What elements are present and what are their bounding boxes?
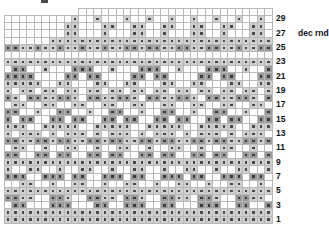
chart-cell[interactable] <box>116 109 123 116</box>
chart-cell[interactable] <box>5 137 12 144</box>
chart-cell[interactable] <box>146 195 153 202</box>
chart-cell[interactable] <box>250 209 257 216</box>
chart-cell[interactable] <box>116 16 123 23</box>
chart-cell[interactable] <box>265 216 272 223</box>
chart-cell[interactable] <box>146 66 153 73</box>
chart-cell[interactable] <box>86 144 93 151</box>
chart-cell[interactable] <box>124 159 131 166</box>
chart-cell[interactable] <box>243 80 250 87</box>
chart-cell[interactable] <box>109 23 116 30</box>
chart-cell[interactable] <box>27 16 34 23</box>
chart-cell[interactable] <box>5 23 12 30</box>
chart-cell[interactable] <box>71 123 78 130</box>
chart-cell[interactable] <box>42 123 49 130</box>
chart-cell[interactable] <box>49 195 56 202</box>
chart-cell[interactable] <box>79 44 86 51</box>
chart-cell[interactable] <box>19 87 26 94</box>
chart-cell[interactable] <box>124 152 131 159</box>
chart-cell[interactable] <box>101 80 108 87</box>
chart-cell[interactable] <box>131 87 138 94</box>
chart-cell[interactable] <box>116 173 123 180</box>
chart-cell[interactable] <box>57 202 64 209</box>
chart-cell[interactable] <box>42 216 49 223</box>
chart-cell[interactable] <box>228 66 235 73</box>
chart-cell[interactable] <box>235 73 242 80</box>
chart-cell[interactable] <box>243 166 250 173</box>
chart-cell[interactable] <box>101 102 108 109</box>
chart-cell[interactable] <box>228 173 235 180</box>
chart-cell[interactable] <box>116 102 123 109</box>
chart-cell[interactable] <box>257 123 264 130</box>
chart-cell[interactable] <box>109 187 116 194</box>
chart-cell[interactable] <box>257 209 264 216</box>
chart-cell[interactable] <box>101 130 108 137</box>
chart-cell[interactable] <box>213 195 220 202</box>
chart-cell[interactable] <box>138 44 145 51</box>
chart-cell[interactable] <box>109 159 116 166</box>
chart-cell[interactable] <box>124 51 131 58</box>
chart-cell[interactable] <box>153 109 160 116</box>
chart-cell[interactable] <box>198 37 205 44</box>
chart-cell[interactable] <box>94 216 101 223</box>
chart-cell[interactable] <box>228 94 235 101</box>
chart-cell[interactable] <box>101 209 108 216</box>
chart-cell[interactable] <box>183 130 190 137</box>
chart-cell[interactable] <box>190 30 197 37</box>
chart-cell[interactable] <box>213 173 220 180</box>
chart-cell[interactable] <box>109 80 116 87</box>
chart-cell[interactable] <box>131 195 138 202</box>
chart-cell[interactable] <box>42 195 49 202</box>
chart-cell[interactable] <box>12 44 19 51</box>
chart-cell[interactable] <box>131 37 138 44</box>
chart-cell[interactable] <box>49 94 56 101</box>
chart-cell[interactable] <box>257 59 264 66</box>
chart-cell[interactable] <box>198 173 205 180</box>
chart-cell[interactable] <box>250 137 257 144</box>
chart-cell[interactable] <box>257 144 264 151</box>
chart-cell[interactable] <box>116 202 123 209</box>
chart-cell[interactable] <box>243 180 250 187</box>
chart-cell[interactable] <box>190 195 197 202</box>
chart-cell[interactable] <box>101 66 108 73</box>
chart-cell[interactable] <box>42 173 49 180</box>
chart-cell[interactable] <box>183 66 190 73</box>
chart-cell[interactable] <box>94 159 101 166</box>
chart-cell[interactable] <box>220 152 227 159</box>
chart-cell[interactable] <box>79 195 86 202</box>
chart-cell[interactable] <box>146 209 153 216</box>
chart-cell[interactable] <box>198 44 205 51</box>
chart-cell[interactable] <box>257 109 264 116</box>
chart-cell[interactable] <box>205 173 212 180</box>
chart-cell[interactable] <box>228 102 235 109</box>
chart-cell[interactable] <box>250 173 257 180</box>
chart-cell[interactable] <box>161 23 168 30</box>
chart-cell[interactable] <box>94 80 101 87</box>
chart-cell[interactable] <box>176 80 183 87</box>
chart-cell[interactable] <box>220 144 227 151</box>
chart-cell[interactable] <box>34 123 41 130</box>
chart-cell[interactable] <box>153 173 160 180</box>
chart-cell[interactable] <box>168 137 175 144</box>
chart-cell[interactable] <box>19 173 26 180</box>
chart-cell[interactable] <box>101 116 108 123</box>
chart-cell[interactable] <box>213 9 220 16</box>
chart-cell[interactable] <box>42 209 49 216</box>
chart-cell[interactable] <box>257 152 264 159</box>
chart-cell[interactable] <box>146 216 153 223</box>
chart-cell[interactable] <box>220 94 227 101</box>
chart-cell[interactable] <box>153 16 160 23</box>
chart-cell[interactable] <box>153 216 160 223</box>
chart-cell[interactable] <box>5 116 12 123</box>
chart-cell[interactable] <box>12 130 19 137</box>
chart-cell[interactable] <box>57 37 64 44</box>
chart-cell[interactable] <box>27 59 34 66</box>
chart-cell[interactable] <box>198 144 205 151</box>
chart-cell[interactable] <box>19 80 26 87</box>
chart-cell[interactable] <box>109 87 116 94</box>
chart-cell[interactable] <box>19 30 26 37</box>
chart-cell[interactable] <box>64 187 71 194</box>
chart-cell[interactable] <box>71 209 78 216</box>
chart-cell[interactable] <box>64 209 71 216</box>
chart-cell[interactable] <box>101 159 108 166</box>
chart-cell[interactable] <box>101 9 108 16</box>
